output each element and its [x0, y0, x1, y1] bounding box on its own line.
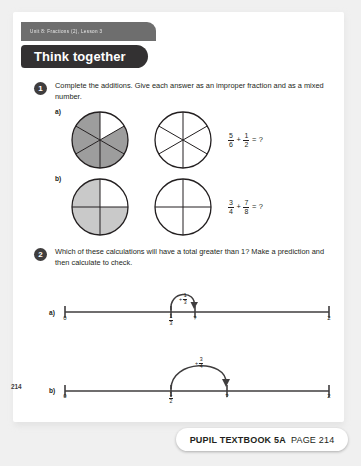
footer-book-title: PUPIL TEXTBOOK 5A: [190, 435, 286, 445]
numberline-2b-tick-fraction: 1 2: [169, 392, 173, 404]
question-2: 2 Which of these calculations will have …: [34, 247, 327, 268]
question-1-number: 1: [34, 82, 47, 95]
equation-1b: 3 4 + 7 8 = ?: [228, 199, 263, 215]
fraction-5-6: 5 6: [228, 132, 234, 148]
equals-sign: =: [252, 135, 256, 144]
fraction-circle-1a-left: [70, 110, 130, 170]
numberline-2b-jump-label: + 3 4: [195, 357, 203, 369]
banner-title: Think together: [34, 49, 126, 64]
plus-sign: +: [179, 296, 182, 302]
fraction-circle-1b-left: [70, 177, 130, 237]
unit-tab-label: Unit 8: Fractions (2), Lesson 3: [30, 29, 102, 34]
question-2-text: Which of these calculations will have a …: [55, 247, 327, 268]
numberline-2a-jump-label: + 1 3: [179, 293, 187, 305]
fraction-circle-1a-right: [153, 110, 213, 170]
numberline-2b-end: 2: [327, 393, 330, 399]
part-2a-label: a): [49, 309, 55, 316]
question-1: 1 Complete the additions. Give each answ…: [34, 81, 327, 102]
equation-1a: 5 6 + 1 2 = ?: [228, 132, 263, 148]
numberline-2b-start: 0: [63, 393, 66, 399]
part-1a-label: a): [55, 108, 61, 115]
question-1-text: Complete the additions. Give each answer…: [55, 81, 327, 102]
numberline-2a-tick-fraction: 1 3: [169, 314, 173, 326]
question-2-number: 2: [34, 248, 47, 261]
numberline-2a-start: 0: [63, 315, 66, 321]
answer-placeholder-1b: ?: [259, 202, 263, 211]
plus-sign: +: [195, 360, 198, 366]
jump-fraction: 3 4: [199, 357, 203, 369]
operator-plus: +: [237, 135, 241, 144]
numberline-2a-end: 2: [327, 315, 330, 321]
think-together-banner: Think together: [21, 45, 148, 68]
jump-fraction: 1 3: [183, 293, 187, 305]
numberline-2a: [61, 284, 333, 320]
numberline-2a-unknown: ?: [193, 315, 196, 321]
textbook-page: Unit 8: Fractions (2), Lesson 3 Think to…: [13, 12, 344, 422]
footer-badge: PUPIL TEXTBOOK 5A PAGE 214: [176, 428, 348, 451]
fraction-3-4: 3 4: [228, 199, 234, 215]
answer-placeholder-1a: ?: [259, 135, 263, 144]
equals-sign: =: [252, 202, 256, 211]
footer-page-label: PAGE 214: [291, 435, 334, 445]
part-1b-label: b): [55, 175, 61, 182]
fraction-1-2: 1 2: [243, 132, 249, 148]
operator-plus: +: [237, 202, 241, 211]
part-2b-label: b): [49, 387, 55, 394]
page-number: 214: [11, 383, 22, 390]
unit-tab: Unit 8: Fractions (2), Lesson 3: [21, 22, 156, 41]
numberline-2b-unknown: ?: [225, 393, 228, 399]
fraction-circle-1b-right: [153, 177, 213, 237]
fraction-7-8: 7 8: [243, 199, 249, 215]
